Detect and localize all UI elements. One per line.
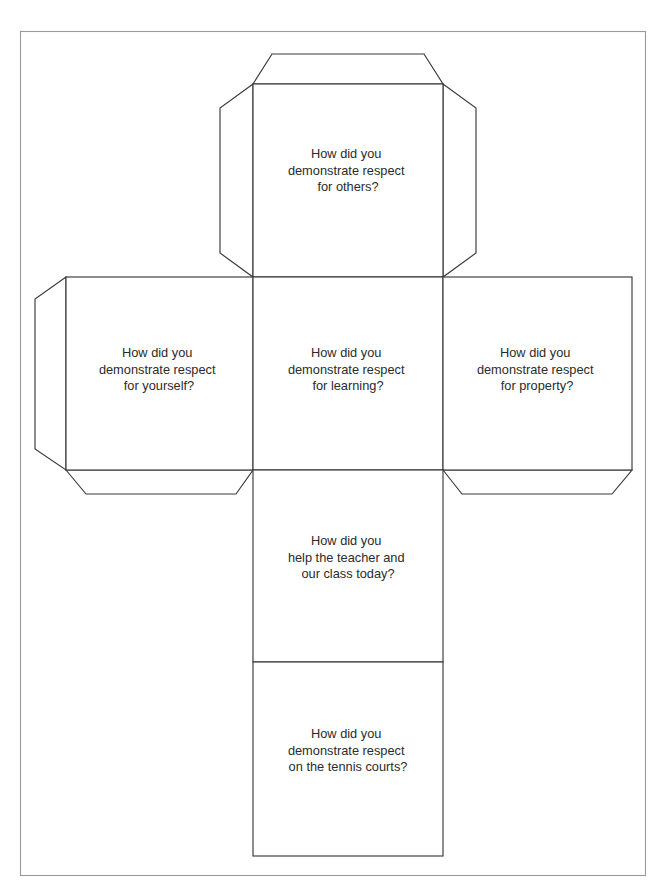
- flap-left-outer: [35, 277, 66, 470]
- worksheet-page: How did you demonstrate respect for othe…: [0, 0, 664, 893]
- flap-top: [253, 54, 443, 84]
- flap-top-right: [443, 84, 476, 277]
- cube-net-diagram: How did you demonstrate respect for othe…: [0, 0, 664, 893]
- flap-left-bottom: [66, 470, 253, 494]
- flap-right-bottom: [443, 470, 632, 494]
- flap-top-left: [220, 84, 253, 277]
